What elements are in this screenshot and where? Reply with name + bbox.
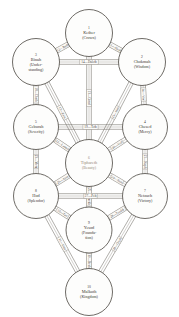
svg-text:18—Cheth: 18—Cheth <box>34 87 38 102</box>
path-label-17: 17—Zain <box>57 105 69 121</box>
sephirah-gloss: (Severity) <box>28 129 45 134</box>
sephirah-tiphareth[interactable]: 6Tiphareth(Beauty) <box>66 140 113 187</box>
sephirah-malkuth[interactable]: 10Malkuth(Kingdom) <box>66 269 113 316</box>
path-label-23: 23—Mem <box>34 155 39 169</box>
path-label-20: 20—Yod <box>110 139 124 151</box>
sephirah-chokmah[interactable]: 2Chokmah(Wisdom) <box>119 39 166 86</box>
tree-of-life-canvas: 11—Aleph12—Beth13—Gimel14—Daleth15—Heh16… <box>0 0 179 317</box>
svg-text:13—Gimel: 13—Gimel <box>87 91 91 106</box>
svg-text:30—Resh: 30—Resh <box>87 254 91 268</box>
sephirah-gloss: (Mercy) <box>138 129 152 134</box>
sephirah-netzach[interactable]: 7Netzach(Victory) <box>123 174 168 219</box>
path-label-29: 29—Qoph <box>111 236 123 252</box>
svg-text:16—Vav: 16—Vav <box>141 89 146 101</box>
svg-text:28—Tzaddi: 28—Tzaddi <box>109 207 125 219</box>
path-label-27: 27—Peh <box>84 194 98 199</box>
path-label-16: 16—Vav <box>141 88 147 102</box>
sephirah-gloss: (Wisdom) <box>134 64 151 69</box>
svg-text:14—Daleth: 14—Daleth <box>81 60 97 64</box>
sephirah-gloss: (Victory) <box>138 198 153 203</box>
sephirah-binah[interactable]: 3Binah(Under-standing) <box>13 39 60 86</box>
sephirah-yesod[interactable]: 9Yesod(Founda-tion) <box>66 207 112 253</box>
sephirah-chesed[interactable]: 4Chesed(Mercy) <box>123 105 168 150</box>
path-label-30: 30—Resh <box>87 253 92 268</box>
svg-text:29—Qoph: 29—Qoph <box>112 237 123 251</box>
path-label-13: 13—Gimel <box>87 90 92 107</box>
sephirah-gloss: (Kingdom) <box>80 294 98 299</box>
sephirah-gloss: standing) <box>29 67 45 72</box>
sephirah-geburah[interactable]: 5Geburah(Severity) <box>14 105 59 150</box>
path-label-26: 26—Ayin <box>55 173 71 185</box>
path-label-21: 21—Kaph <box>143 154 148 169</box>
sephirah-gloss: (Crown) <box>82 35 96 40</box>
sephirah-gloss: (Splendor) <box>27 198 45 203</box>
svg-text:21—Kaph: 21—Kaph <box>143 155 147 169</box>
sephirah-kether[interactable]: 1Kether(Crown) <box>66 10 113 57</box>
sephirah-hod[interactable]: 8Hod(Splendor) <box>14 174 59 219</box>
path-label-19: 19—Teth <box>83 125 98 130</box>
path-label-18: 18—Cheth <box>34 86 39 103</box>
svg-text:23—Mem: 23—Mem <box>34 155 38 169</box>
sephirah-gloss: tion) <box>85 235 93 240</box>
svg-text:27—Peh: 27—Peh <box>85 194 97 198</box>
path-label-24: 24—Nun <box>110 174 124 185</box>
svg-text:19—Teth: 19—Teth <box>84 125 97 129</box>
tree-of-life-diagram: 11—Aleph12—Beth13—Gimel14—Daleth15—Heh16… <box>0 0 179 317</box>
path-label-28: 28—Tzaddi <box>108 206 127 220</box>
path-label-31: 31—Shin <box>57 236 69 252</box>
path-label-14: 14—Daleth <box>80 60 99 65</box>
svg-text:22—Lamed: 22—Lamed <box>55 139 71 151</box>
sephirah-gloss: (Beauty) <box>82 165 97 170</box>
path-label-32: 32—Tav <box>55 207 69 218</box>
path-label-15: 15—Heh <box>110 105 121 119</box>
path-label-22: 22—Lamed <box>54 138 71 152</box>
